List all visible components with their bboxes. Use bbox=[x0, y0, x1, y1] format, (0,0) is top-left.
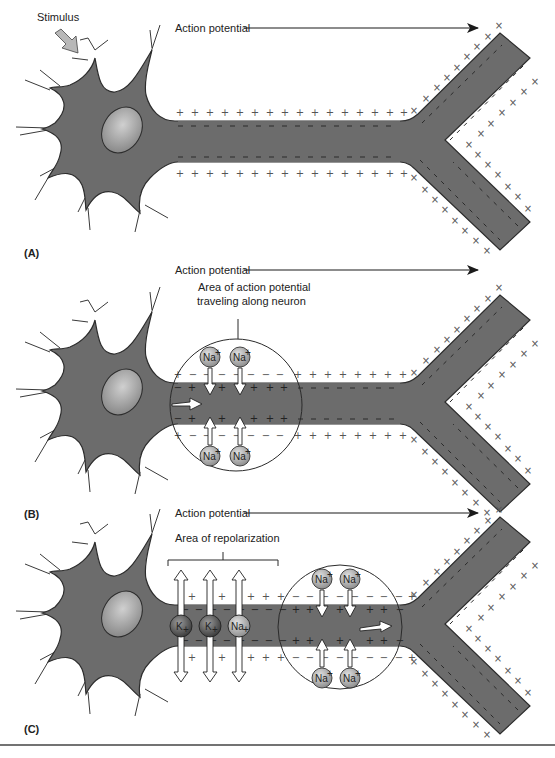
svg-text:+: + bbox=[218, 652, 226, 663]
svg-text:+: + bbox=[384, 369, 392, 380]
svg-text:+: + bbox=[280, 382, 288, 393]
svg-text:+: + bbox=[400, 168, 408, 179]
svg-text:−: − bbox=[195, 635, 203, 646]
svg-text:−: − bbox=[174, 413, 182, 424]
svg-text:+: + bbox=[355, 668, 361, 679]
svg-text:+: + bbox=[327, 569, 333, 580]
svg-text:+: + bbox=[356, 107, 364, 118]
repolarization-ions: K+ K+ Na+ bbox=[170, 615, 250, 637]
na-ion: Na+ bbox=[312, 668, 333, 688]
na-ion: Na+ bbox=[200, 446, 221, 466]
svg-text:+: + bbox=[309, 369, 317, 380]
svg-text:−: − bbox=[306, 591, 314, 602]
svg-text:+: + bbox=[188, 591, 196, 602]
svg-text:−: − bbox=[366, 652, 374, 663]
svg-text:−: − bbox=[380, 591, 388, 602]
svg-text:−: − bbox=[276, 430, 284, 441]
svg-text:+: + bbox=[245, 347, 251, 358]
svg-text:−: − bbox=[336, 652, 344, 663]
svg-text:+: + bbox=[247, 652, 255, 663]
panel-label-b: (B) bbox=[24, 508, 40, 520]
svg-text:−: − bbox=[265, 604, 273, 615]
svg-text:+: + bbox=[339, 369, 347, 380]
svg-text:+: + bbox=[206, 168, 214, 179]
svg-text:+: + bbox=[212, 624, 218, 635]
svg-text:−: − bbox=[306, 652, 314, 663]
svg-text:−: − bbox=[218, 369, 226, 380]
svg-text:+: + bbox=[306, 604, 314, 615]
svg-text:+: + bbox=[306, 635, 314, 646]
svg-text:−: − bbox=[262, 369, 270, 380]
svg-text:−: − bbox=[247, 430, 255, 441]
svg-text:+: + bbox=[266, 107, 274, 118]
svg-text:K: K bbox=[205, 621, 212, 632]
na-ion: Na+ bbox=[230, 347, 251, 367]
svg-text:+: + bbox=[380, 604, 388, 615]
svg-text:+: + bbox=[251, 107, 259, 118]
svg-text:+: + bbox=[339, 430, 347, 441]
na-ion: Na+ bbox=[230, 446, 251, 466]
svg-text:+: + bbox=[266, 382, 274, 393]
action-potential-label-b: Action potential bbox=[175, 264, 250, 276]
svg-text:+: + bbox=[262, 652, 270, 663]
svg-text:−: − bbox=[292, 591, 300, 602]
svg-text:+: + bbox=[221, 168, 229, 179]
svg-text:+: + bbox=[262, 591, 270, 602]
svg-text:−: − bbox=[262, 430, 270, 441]
svg-text:+: + bbox=[176, 168, 184, 179]
svg-text:−: − bbox=[265, 635, 273, 646]
svg-text:+: + bbox=[188, 413, 196, 424]
repolarization-label: Area of repolarization bbox=[175, 532, 280, 544]
svg-text:+: + bbox=[386, 107, 394, 118]
svg-text:K: K bbox=[176, 621, 183, 632]
svg-text:+: + bbox=[215, 446, 221, 457]
svg-text:+: + bbox=[251, 168, 259, 179]
svg-text:+: + bbox=[183, 624, 189, 635]
action-potential-figure: × × × × × × × × × × × × × × × × × × × × bbox=[0, 0, 555, 758]
svg-text:−: − bbox=[223, 635, 231, 646]
svg-text:+: + bbox=[341, 168, 349, 179]
svg-text:−: − bbox=[218, 430, 226, 441]
svg-text:+: + bbox=[354, 430, 362, 441]
svg-text:−: − bbox=[174, 382, 182, 393]
svg-text:+: + bbox=[324, 369, 332, 380]
svg-text:+: + bbox=[296, 168, 304, 179]
svg-text:+: + bbox=[399, 430, 407, 441]
svg-text:+: + bbox=[243, 624, 249, 635]
svg-text:+: + bbox=[188, 652, 196, 663]
svg-text:+: + bbox=[341, 107, 349, 118]
svg-text:+: + bbox=[188, 382, 196, 393]
svg-text:+: + bbox=[191, 107, 199, 118]
svg-text:+: + bbox=[408, 591, 416, 602]
svg-text:+: + bbox=[250, 382, 258, 393]
svg-text:+: + bbox=[236, 168, 244, 179]
svg-text:+: + bbox=[408, 652, 416, 663]
svg-text:+: + bbox=[280, 413, 288, 424]
svg-text:−: − bbox=[189, 369, 197, 380]
svg-text:+: + bbox=[369, 430, 377, 441]
svg-text:+: + bbox=[311, 168, 319, 179]
stimulus-arrow-icon bbox=[55, 29, 78, 53]
na-ion: Na+ bbox=[312, 569, 333, 589]
panel-label-a: (A) bbox=[24, 247, 40, 259]
svg-text:+: + bbox=[266, 413, 274, 424]
svg-text:+: + bbox=[371, 168, 379, 179]
svg-text:+: + bbox=[218, 413, 226, 424]
svg-text:−: − bbox=[336, 591, 344, 602]
k-ion: K+ bbox=[199, 615, 221, 637]
action-potential-label-c: Action potential bbox=[175, 507, 250, 519]
panel-c: −−−−−−−− +++++− −−−−−−−− +++++− +++++ −−… bbox=[16, 504, 539, 740]
svg-text:+: + bbox=[324, 430, 332, 441]
svg-text:+: + bbox=[206, 107, 214, 118]
svg-text:+: + bbox=[326, 168, 334, 179]
svg-text:+: + bbox=[296, 107, 304, 118]
action-potential-label-a: Action potential bbox=[175, 22, 250, 34]
svg-text:+: + bbox=[326, 107, 334, 118]
na-ion: Na+ bbox=[200, 347, 221, 367]
svg-text:+: + bbox=[400, 107, 408, 118]
svg-text:+: + bbox=[399, 369, 407, 380]
svg-text:+: + bbox=[247, 591, 255, 602]
area-label-line2-b: traveling along neuron bbox=[197, 295, 306, 307]
svg-text:−: − bbox=[276, 369, 284, 380]
panel-a: ++++++++++++++++ ++++++++++++++++ Stimul… bbox=[16, 11, 539, 259]
